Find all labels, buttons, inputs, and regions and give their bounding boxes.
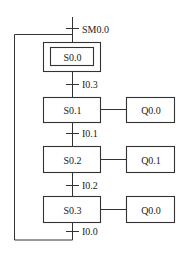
transition-label-4: I0.0 xyxy=(82,227,98,237)
transition-label-sm00: SM0.0 xyxy=(82,25,109,35)
transition-label-2: I0.1 xyxy=(82,129,98,139)
action-label-2: Q0.1 xyxy=(127,147,175,173)
step-label-2: S0.2 xyxy=(44,147,101,173)
initial-step-label: S0.0 xyxy=(51,48,94,66)
transition-label-3: I0.2 xyxy=(82,181,98,191)
action-label-3: Q0.0 xyxy=(127,197,175,223)
step-label-1: S0.1 xyxy=(44,98,101,123)
action-label-1: Q0.0 xyxy=(127,98,175,123)
step-label-3: S0.3 xyxy=(44,197,101,223)
transition-label-1: I0.3 xyxy=(82,80,98,90)
